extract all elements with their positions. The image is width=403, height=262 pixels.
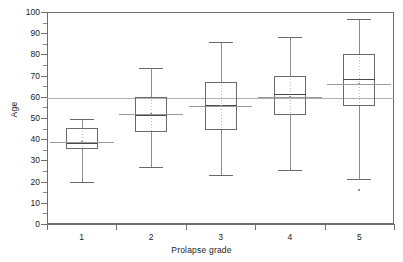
boxplot-figure: Age 0102030405060708090100 12345 Prolaps… xyxy=(0,0,403,262)
y-axis-tick-label: 80 xyxy=(14,50,40,59)
lower-whisker xyxy=(221,130,222,176)
mean-marker xyxy=(81,141,83,143)
x-axis-tick-label: 1 xyxy=(67,233,97,242)
y-axis-tick-label: 60 xyxy=(14,93,40,102)
lower-whisker xyxy=(151,132,152,167)
x-axis-tick xyxy=(47,224,48,230)
upper-whisker xyxy=(82,119,83,127)
median-line xyxy=(135,115,167,116)
x-axis-tick xyxy=(394,224,395,230)
upper-whisker-cap xyxy=(209,42,233,43)
y-axis-tick-label: 70 xyxy=(14,72,40,81)
y-axis-tick-label: 10 xyxy=(14,199,40,208)
x-axis-tick xyxy=(186,224,187,230)
x-axis-tick-label: 2 xyxy=(136,233,166,242)
upper-whisker-cap xyxy=(347,19,371,20)
x-axis-title: Prolapse grade xyxy=(0,246,403,255)
upper-whisker-cap xyxy=(70,119,94,120)
iqr-box xyxy=(343,54,375,106)
y-axis-tick-label: 90 xyxy=(14,29,40,38)
mean-marker xyxy=(358,83,360,85)
iqr-box xyxy=(66,128,98,149)
y-axis-tick-label: 40 xyxy=(14,135,40,144)
mean-marker xyxy=(289,96,291,98)
y-axis-tick-label: 100 xyxy=(14,8,40,17)
upper-whisker xyxy=(290,37,291,75)
upper-whisker-cap xyxy=(278,37,302,38)
lower-whisker-cap xyxy=(70,182,94,183)
median-line xyxy=(66,143,98,144)
upper-whisker xyxy=(151,68,152,97)
lower-whisker xyxy=(82,149,83,182)
lower-whisker-cap xyxy=(209,175,233,176)
upper-whisker-cap xyxy=(139,68,163,69)
y-axis-tick-label: 30 xyxy=(14,156,40,165)
x-axis-tick-label: 4 xyxy=(275,233,305,242)
median-line xyxy=(343,79,375,80)
lower-whisker xyxy=(290,115,291,170)
x-axis-line xyxy=(47,224,394,225)
y-axis-tick-label: 50 xyxy=(14,114,40,123)
y-axis-tick-label: 20 xyxy=(14,178,40,187)
upper-whisker xyxy=(221,42,222,82)
lower-whisker xyxy=(359,106,360,179)
lower-whisker-cap xyxy=(347,179,371,180)
x-axis-tick xyxy=(116,224,117,230)
x-axis-tick xyxy=(255,224,256,230)
lower-whisker-cap xyxy=(139,167,163,168)
x-axis-tick xyxy=(325,224,326,230)
mean-marker xyxy=(150,113,152,115)
x-axis-tick-label: 5 xyxy=(344,233,374,242)
upper-whisker xyxy=(359,19,360,54)
y-axis-tick-label: 0 xyxy=(14,220,40,229)
x-axis-tick-label: 3 xyxy=(206,233,236,242)
mean-marker xyxy=(220,105,222,107)
lower-whisker-cap xyxy=(278,170,302,171)
median-line xyxy=(274,94,306,95)
outlier-point xyxy=(358,189,360,191)
